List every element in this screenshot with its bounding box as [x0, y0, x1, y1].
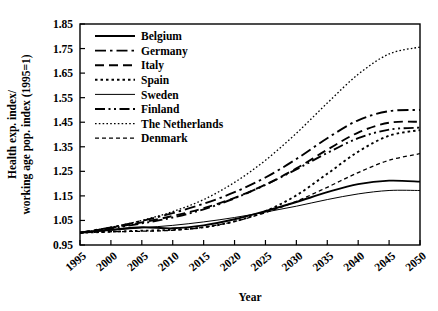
legend-label-spain: Spain — [141, 74, 170, 87]
x-tick-label: 2050 — [403, 249, 429, 273]
x-tick-label: 2030 — [279, 249, 305, 273]
y-axis-label-line2: working age pop. index (1995=1) — [20, 54, 33, 214]
legend-label-germany: Germany — [141, 45, 188, 58]
chart-figure: 0.951.051.151.251.351.451.551.651.751.85… — [0, 0, 438, 311]
legend-label-belgium: Belgium — [141, 30, 182, 43]
x-tick-label: 2010 — [156, 249, 182, 273]
y-tick-label: 1.45 — [53, 116, 73, 128]
y-tick-label: 1.85 — [53, 18, 73, 30]
x-tick-label: 2040 — [341, 249, 367, 273]
x-axis-label: Year — [239, 291, 262, 303]
legend-label-italy: Italy — [141, 59, 164, 72]
legend-label-denmark: Denmark — [141, 132, 188, 144]
x-tick-label: 2005 — [125, 249, 151, 273]
legend-label-finland: Finland — [141, 103, 180, 115]
x-tick-label: 2015 — [187, 249, 213, 273]
legend-label-the-netherlands: The Netherlands — [141, 118, 224, 130]
x-tick-label: 2035 — [310, 249, 336, 273]
y-tick-label: 1.05 — [53, 214, 73, 226]
y-axis-label-line1: Health exp. index/ — [6, 89, 19, 179]
x-tick-label: 2000 — [94, 249, 120, 273]
y-tick-label: 1.25 — [53, 165, 73, 177]
y-tick-label: 1.75 — [53, 43, 73, 55]
y-tick-label: 0.95 — [53, 239, 73, 251]
x-tick-label: 2045 — [372, 249, 398, 273]
y-tick-label: 1.55 — [53, 92, 73, 104]
line-chart: 0.951.051.151.251.351.451.551.651.751.85… — [0, 0, 438, 311]
x-tick-label: 2020 — [217, 249, 243, 273]
x-tick-label: 2025 — [248, 249, 274, 273]
y-tick-label: 1.35 — [53, 141, 73, 153]
y-tick-label: 1.65 — [53, 67, 73, 79]
y-tick-label: 1.15 — [53, 190, 73, 202]
x-tick-label: 1995 — [63, 249, 89, 273]
legend-label-sweden: Sweden — [141, 89, 179, 101]
